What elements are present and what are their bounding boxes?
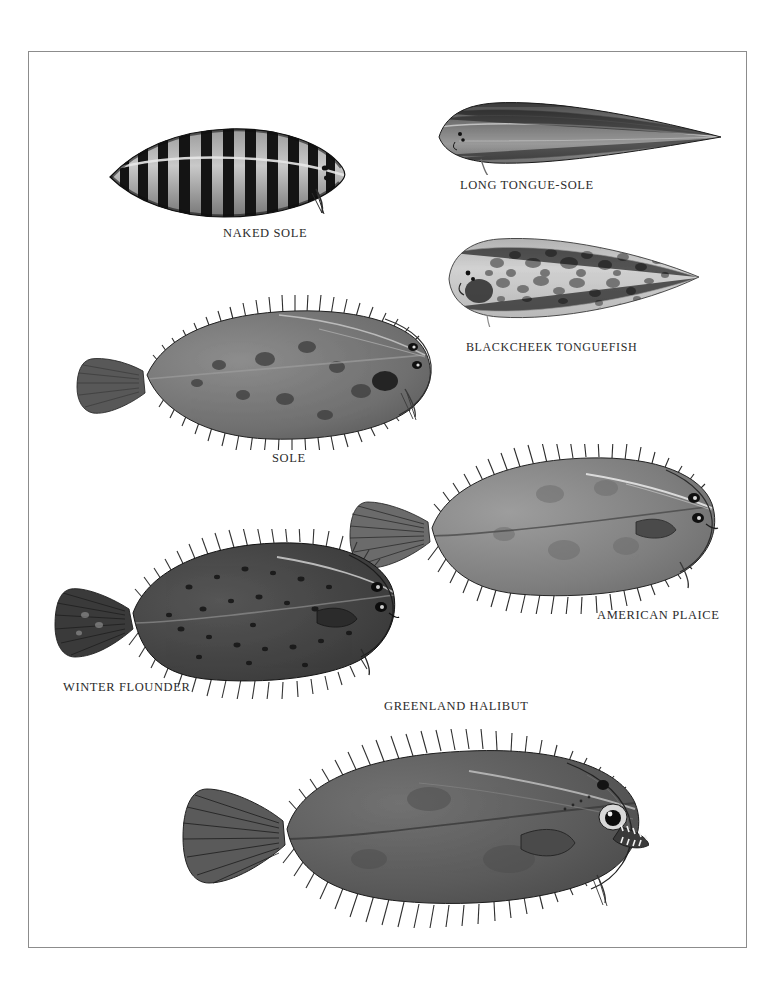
plate-border: NAKED SOLE (28, 51, 747, 948)
halibut-caudal-fin (183, 789, 285, 883)
figure-sole (69, 295, 449, 450)
label-greenland-halibut: GREENLAND HALIBUT (384, 699, 529, 714)
figure-naked-sole (106, 119, 350, 223)
figure-blackcheek-tonguefish (441, 229, 707, 327)
label-american-plaice: AMERICAN PLAICE (597, 608, 720, 623)
label-naked-sole: NAKED SOLE (223, 226, 307, 241)
flounder-caudal-fin (55, 589, 133, 657)
figure-greenland-halibut (169, 719, 649, 929)
black-cheek-mark (465, 279, 493, 303)
figure-winter-flounder (49, 529, 404, 699)
label-long-tongue-sole: LONG TONGUE-SOLE (460, 178, 594, 193)
sole-caudal-fin (77, 359, 145, 414)
label-blackcheek-tonguefish: BLACKCHEEK TONGUEFISH (466, 340, 637, 355)
figure-long-tongue-sole (429, 97, 729, 175)
label-winter-flounder: WINTER FLOUNDER (63, 680, 190, 695)
label-sole: SOLE (272, 451, 306, 466)
